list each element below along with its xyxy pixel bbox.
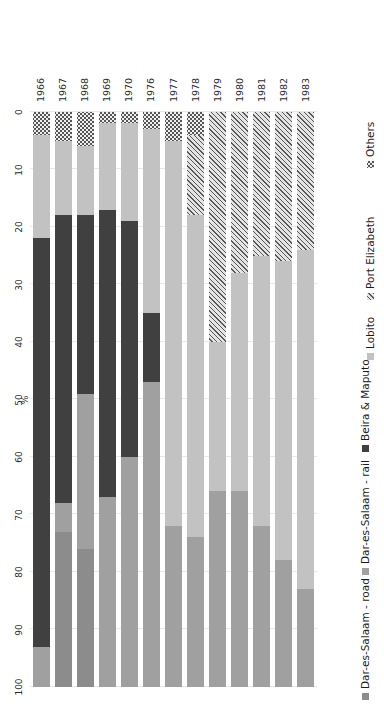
bar-segment: [99, 210, 116, 498]
legend-item-beira[interactable]: Beira & Maputo: [360, 359, 371, 452]
bar-row: [253, 112, 270, 687]
chart-canvas: 1009080706050403020100 19661967196819691…: [0, 0, 384, 709]
value-tick-label: 40: [12, 329, 26, 355]
bar-segment: [121, 124, 138, 222]
bar-segment: [253, 256, 270, 526]
bar-segment: [143, 112, 160, 129]
bar-row: [187, 112, 204, 687]
bar-segment: [275, 561, 292, 688]
bar-segment: [99, 497, 116, 687]
category-tick-label: 1983: [300, 75, 312, 105]
legend-item-pe[interactable]: Port Elizabeth: [365, 217, 376, 300]
category-tick-label: 1970: [123, 75, 135, 105]
rotated-chart-frame: [0, 0, 384, 709]
bar-segment: [77, 394, 94, 549]
category-tick-label: 1967: [57, 75, 69, 105]
bar-segment: [77, 112, 94, 147]
bar-segment: [99, 124, 116, 210]
bar-segment: [143, 382, 160, 687]
category-tick-label: 1976: [145, 75, 157, 105]
bar-segment: [209, 342, 226, 492]
bar-segment: [297, 250, 314, 589]
bar-segment: [165, 112, 182, 141]
bar-segment: [275, 112, 292, 262]
bar-segment: [55, 141, 72, 216]
bar-row: [275, 112, 292, 687]
category-tick-label: 1968: [79, 75, 91, 105]
bar-segment: [209, 492, 226, 688]
bar-row: [209, 112, 226, 687]
bar-segment: [33, 647, 50, 687]
value-tick-label: 0: [12, 99, 26, 125]
bar-segment: [231, 273, 248, 492]
bar-segment: [187, 216, 204, 538]
bar-segment: [55, 112, 72, 141]
bar-segment: [143, 129, 160, 313]
bar-segment: [209, 112, 226, 342]
value-tick-label: 10: [12, 157, 26, 183]
legend-label: Lobito: [365, 317, 376, 349]
bar-segment: [33, 135, 50, 239]
legend-label: Beira & Maputo: [360, 359, 371, 441]
bar-row: [121, 112, 138, 687]
bar-row: [77, 112, 94, 687]
category-tick-label: 1981: [256, 75, 268, 105]
bar-segment: [55, 503, 72, 532]
bar-segment: [231, 112, 248, 273]
legend-swatch-lobito: [367, 353, 374, 360]
bar-segment: [187, 538, 204, 688]
category-tick-label: 1977: [168, 75, 180, 105]
bar-segment: [253, 112, 270, 256]
axis-title: %: [19, 393, 31, 407]
bar-segment: [121, 221, 138, 457]
bar-segment: [187, 112, 204, 135]
category-tick-label: 1969: [101, 75, 113, 105]
legend-item-dsm-rail[interactable]: Dar-es-Salaam - rail: [360, 460, 371, 575]
legend-item-others[interactable]: Others: [365, 122, 376, 168]
legend-swatch-others: [367, 161, 374, 168]
legend-item-lobito[interactable]: Lobito: [365, 317, 376, 360]
bar-segment: [253, 526, 270, 687]
value-tick-label: 70: [12, 502, 26, 528]
bar-row: [99, 112, 116, 687]
bar-segment: [143, 313, 160, 382]
legend-label: Dar-es-Salaam - road: [360, 578, 371, 689]
bar-row: [231, 112, 248, 687]
bar-row: [297, 112, 314, 687]
legend-label: Dar-es-Salaam - rail: [360, 460, 371, 564]
bar-row: [33, 112, 50, 687]
value-tick-label: 60: [12, 444, 26, 470]
bar-segment: [297, 589, 314, 687]
legend-swatch-dsm-rail: [362, 568, 369, 575]
bar-segment: [33, 239, 50, 647]
bar-segment: [231, 492, 248, 688]
bar-segment: [77, 549, 94, 687]
value-tick-label: 20: [12, 214, 26, 240]
bar-row: [165, 112, 182, 687]
legend-swatch-pe: [367, 293, 374, 300]
category-tick-label: 1980: [234, 75, 246, 105]
bar-row: [143, 112, 160, 687]
value-tick-label: 100: [12, 674, 26, 700]
value-tick-label: 30: [12, 272, 26, 298]
bar-segment: [77, 147, 94, 216]
category-tick-label: 1982: [278, 75, 290, 105]
bar-segment: [55, 532, 72, 687]
legend-swatch-dsm-road: [362, 693, 369, 700]
legend-item-dsm-road[interactable]: Dar-es-Salaam - road: [360, 578, 371, 700]
value-tick-label: 90: [12, 617, 26, 643]
bar-segment: [165, 526, 182, 687]
bar-segment: [275, 262, 292, 561]
plot-area: [30, 112, 317, 687]
bar-segment: [55, 216, 72, 504]
bar-segment: [187, 135, 204, 216]
bar-segment: [165, 141, 182, 526]
bar-segment: [33, 112, 50, 135]
bar-segment: [99, 112, 116, 124]
category-tick-label: 1978: [190, 75, 202, 105]
category-tick-label: 1979: [212, 75, 224, 105]
bar-segment: [297, 112, 314, 250]
bar-segment: [77, 216, 94, 394]
category-tick-label: 1966: [35, 75, 47, 105]
legend-label: Port Elizabeth: [365, 217, 376, 289]
